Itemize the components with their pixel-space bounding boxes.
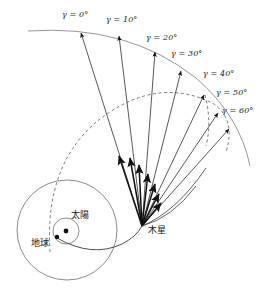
ray-group xyxy=(81,33,229,226)
angle-label-50: γ = 50° xyxy=(216,89,247,97)
angle-label-40: γ = 40° xyxy=(203,70,234,78)
sun-label: 太陽 xyxy=(71,211,89,220)
orbital-trajectory-figure: γ = 0° γ = 10° γ = 20° γ = 30° γ = 40° γ… xyxy=(0,0,277,296)
angle-label-30: γ = 30° xyxy=(171,50,202,58)
sun-marker-dot xyxy=(64,229,69,234)
velocity-arrow-group xyxy=(119,156,161,226)
outer-boundary-arc xyxy=(28,30,250,166)
angle-label-20: γ = 20° xyxy=(146,34,177,42)
angle-label-60: γ = 60° xyxy=(222,107,253,115)
angle-label-10: γ = 10° xyxy=(106,16,137,24)
angle-label-0: γ = 0° xyxy=(62,11,88,19)
earth-marker-dot xyxy=(55,235,59,239)
figure-canvas xyxy=(0,0,277,296)
ray-50 xyxy=(142,113,218,226)
dashed-descent-segment xyxy=(205,95,209,146)
ray-10 xyxy=(119,36,142,226)
ray-60 xyxy=(142,129,229,226)
approach-trajectory xyxy=(57,226,142,250)
jupiter-label: 木星 xyxy=(148,226,166,235)
earth-label: 地球 xyxy=(31,239,49,248)
